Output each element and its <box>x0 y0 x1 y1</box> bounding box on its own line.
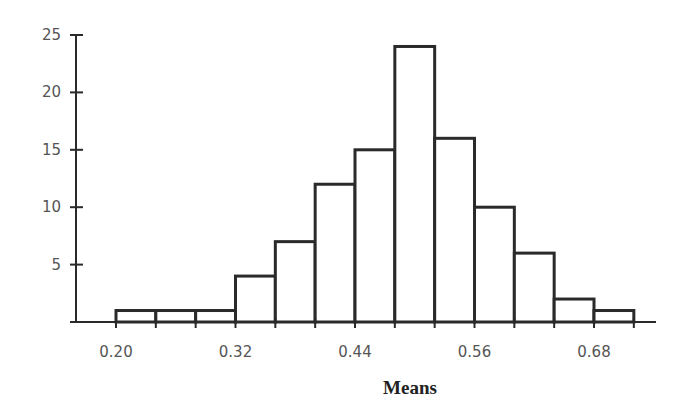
histogram-bar <box>236 276 276 322</box>
x-tick-label: 0.56 <box>458 343 491 361</box>
y-tick-label: 20 <box>42 83 61 101</box>
histogram-bar <box>554 299 594 322</box>
histogram-bar <box>315 184 355 322</box>
x-axis-title: Means <box>383 377 437 398</box>
histogram-bar <box>395 46 435 322</box>
histogram-bar <box>156 311 196 322</box>
x-axis-ticks: 0.200.320.440.560.68 <box>99 318 634 361</box>
x-tick-label: 0.68 <box>577 343 610 361</box>
histogram-chart: 510152025 0.200.320.440.560.68 Means <box>0 0 684 416</box>
histogram-bar <box>355 150 395 322</box>
x-tick-label: 0.20 <box>99 343 132 361</box>
y-tick-label: 10 <box>42 198 61 216</box>
histogram-bar <box>475 207 515 322</box>
histogram-bar <box>435 138 475 322</box>
histogram-bar <box>196 311 236 322</box>
x-tick-label: 0.32 <box>219 343 252 361</box>
histogram-bar <box>594 311 634 322</box>
histogram-bars <box>116 46 634 322</box>
histogram-bar <box>514 253 554 322</box>
y-tick-label: 25 <box>42 26 61 44</box>
y-tick-label: 5 <box>51 256 61 274</box>
histogram-bar <box>116 311 156 322</box>
x-tick-label: 0.44 <box>338 343 371 361</box>
y-tick-label: 15 <box>42 141 61 159</box>
histogram-bar <box>275 242 315 322</box>
